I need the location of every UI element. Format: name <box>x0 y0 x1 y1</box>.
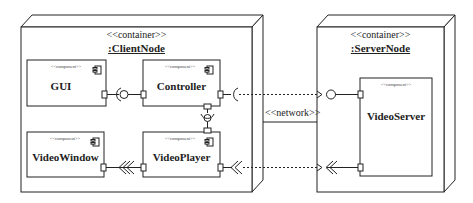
client-node-name: :ClientNode <box>21 42 252 54</box>
component-videoserver-box <box>360 78 432 176</box>
gui-stereotype: <<component>> <box>40 64 92 69</box>
port-icon <box>358 164 363 171</box>
controller-stereotype: <<component>> <box>155 64 205 69</box>
port-icon <box>358 91 363 98</box>
client-node-stereotype: <<container>> <box>21 29 252 40</box>
port-icon <box>101 164 106 171</box>
videoserver-name: VideoServer <box>360 110 432 122</box>
port-icon <box>204 128 211 133</box>
port-icon <box>141 91 146 98</box>
controller-name: Controller <box>143 80 220 92</box>
videoplayer-stereotype: <<component>> <box>155 136 205 141</box>
port-icon <box>141 164 146 171</box>
server-node-stereotype: <<container>> <box>317 29 444 40</box>
network-link-label: <<network>> <box>265 107 320 118</box>
port-icon <box>218 164 223 171</box>
provided-interface-icon <box>327 90 336 99</box>
videowindow-stereotype: <<component>> <box>40 136 90 141</box>
videowindow-name: VideoWindow <box>27 151 104 163</box>
port-icon <box>102 91 107 98</box>
port-icon <box>204 104 211 109</box>
videoserver-stereotype: <<component>> <box>370 82 422 87</box>
server-node-name: :ServerNode <box>317 42 444 54</box>
port-icon <box>218 91 223 98</box>
gui-name: GUI <box>27 80 95 92</box>
videoplayer-name: VideoPlayer <box>143 151 220 163</box>
